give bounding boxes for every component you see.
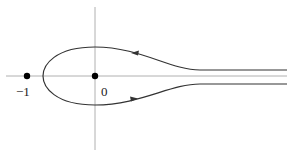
point-zero [92, 73, 98, 79]
diagram-canvas [0, 0, 293, 157]
point-minus-one [24, 73, 30, 79]
arrow-bottom-icon [130, 97, 138, 102]
arrow-top-icon [131, 51, 139, 56]
label-zero: 0 [101, 84, 108, 100]
diagram: −1 0 [0, 0, 293, 157]
label-minus-one: −1 [16, 84, 30, 100]
